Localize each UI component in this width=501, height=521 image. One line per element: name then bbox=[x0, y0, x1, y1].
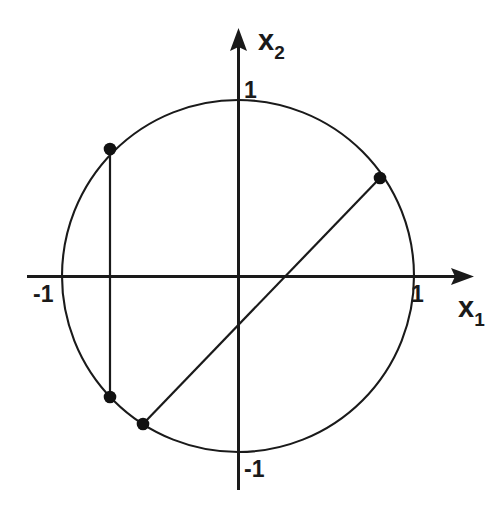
x-axis-label-subscript: 1 bbox=[474, 309, 485, 330]
y-tick-label-positive: 1 bbox=[244, 77, 257, 103]
y-axis-label-base: x bbox=[258, 24, 274, 56]
unit-circle-figure: 1 -1 -1 1 x2 x1 bbox=[0, 0, 501, 521]
x-axis-label-base: x bbox=[458, 291, 474, 323]
x-tick-label-positive: 1 bbox=[411, 281, 424, 307]
data-point bbox=[104, 143, 117, 156]
figure-container: 1 -1 -1 1 x2 x1 bbox=[0, 0, 501, 521]
y-axis-label: x2 bbox=[258, 24, 285, 63]
data-point bbox=[104, 391, 117, 404]
data-point bbox=[374, 172, 387, 185]
diagonal-chord bbox=[143, 178, 380, 424]
data-point bbox=[137, 418, 150, 431]
x-axis-label: x1 bbox=[458, 291, 485, 330]
y-tick-label-negative: -1 bbox=[244, 456, 265, 482]
x-tick-label-negative: -1 bbox=[33, 281, 54, 307]
y-axis-label-subscript: 2 bbox=[274, 42, 285, 63]
